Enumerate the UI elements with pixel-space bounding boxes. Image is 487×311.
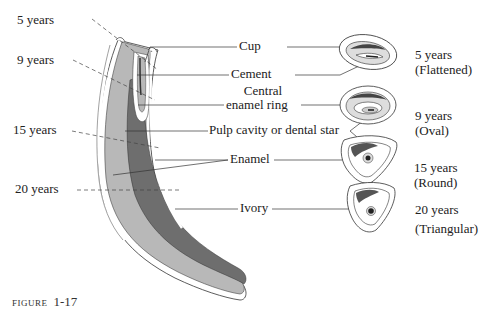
stage-20-years: 20 years (Triangular) <box>415 202 478 236</box>
stage-shape: (Round) <box>414 175 458 190</box>
figure-caption: FIGURE 1-17 <box>12 292 77 310</box>
cross-section-5-years <box>336 30 399 74</box>
stage-5-years: 5 years (Flattened) <box>415 47 472 77</box>
caption-word: FIGURE <box>12 298 48 308</box>
label-pulp-cavity: Pulp cavity or dental star <box>209 123 339 137</box>
cross-section-9-years <box>340 86 396 124</box>
age-label-9-years: 9 years <box>17 53 54 67</box>
label-cement: Cement <box>231 67 271 81</box>
stage-age: 15 years <box>414 160 458 175</box>
cup-inner <box>137 56 145 112</box>
stage-shape: (Flattened) <box>415 62 472 77</box>
age-label-15-years: 15 years <box>13 123 57 137</box>
stage-age: 5 years <box>415 47 472 62</box>
age-label-5-years: 5 years <box>17 13 54 27</box>
longitudinal-tooth-section <box>97 38 246 300</box>
stage-age: 9 years <box>415 108 452 123</box>
stage-shape: (Triangular) <box>415 221 478 236</box>
ivory-layer <box>105 42 244 294</box>
label-central-enamel-ring-line2: enamel ring <box>226 98 288 112</box>
label-cup: Cup <box>239 39 261 53</box>
stage-age: 20 years <box>415 202 478 217</box>
age-label-20-years: 20 years <box>15 182 59 196</box>
label-ivory: Ivory <box>240 201 268 215</box>
caption-number: 1-17 <box>54 294 78 309</box>
label-enamel: Enamel <box>230 152 270 166</box>
label-central-enamel-ring-line1: Central <box>226 84 300 98</box>
cross-section-15-years <box>341 136 397 184</box>
stage-9-years: 9 years (Oval) <box>415 108 452 138</box>
stage-shape: (Oval) <box>415 123 452 138</box>
cross-section-20-years <box>347 182 395 231</box>
stage-15-years: 15 years (Round) <box>414 160 458 190</box>
